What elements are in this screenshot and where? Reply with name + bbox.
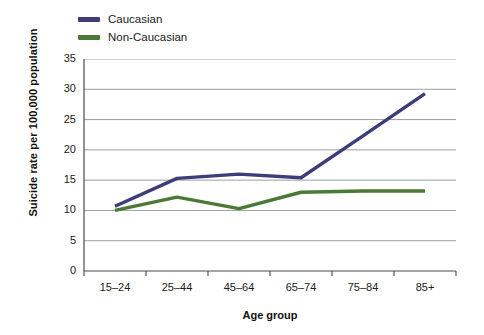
x-tick-label: 15–24 [84,281,146,293]
x-axis-title: Age group [84,309,456,321]
x-tick-label: 75–84 [332,281,394,293]
x-tick-label: 65–74 [270,281,332,293]
x-tick-label: 85+ [394,281,456,293]
x-tick-label: 25–44 [146,281,208,293]
x-axis-tick-marks [84,271,456,276]
chart-figure: Caucasian Non-Caucasian Suicide rate per… [0,0,484,335]
x-tick-label: 45–64 [208,281,270,293]
x-axis-tick-labels: 15–2425–4445–6465–7475–8485+ [84,281,456,293]
